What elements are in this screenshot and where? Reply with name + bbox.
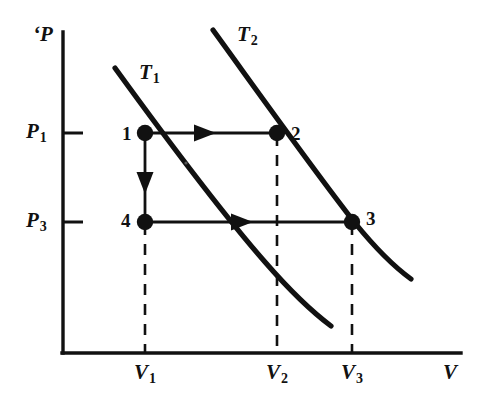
isotherm-label-T1: T1 [139,62,160,86]
y-tick-label-P1-sub: 1 [40,130,47,145]
process-arrowhead-4-to-3 [231,214,253,231]
x-tick-label-V2-base: V [266,360,280,384]
isotherm-curve-T2 [213,30,411,279]
y-tick-label-P1: P1 [26,121,47,145]
process-arrowhead-1-to-4 [137,172,154,194]
x-tick-label-V3-sub: 3 [356,371,363,386]
pv-diagram-canvas [0,0,480,414]
state-point-label-2: 2 [291,124,301,143]
isotherm-label-T2-sub: 2 [251,33,258,48]
isotherm-curve-T1 [115,68,331,326]
process-arrowhead-1-to-2 [194,125,216,142]
x-tick-label-V3-base: V [341,360,355,384]
x-tick-label-V3: V3 [341,362,363,386]
x-tick-label-V1-base: V [134,360,148,384]
isotherm-label-T2: T2 [237,24,258,48]
state-point-marker-4 [137,214,153,230]
pv-diagram-figure: ‘P V P1 P3 V1 V2 V3 T1 T2 1 2 3 4 [0,0,480,414]
x-tick-label-V1-sub: 1 [149,371,156,386]
y-tick-label-P3-sub: 3 [40,219,47,234]
x-tick-label-V2: V2 [266,362,288,386]
state-point-marker-2 [269,125,285,141]
y-tick-label-P1-base: P [26,119,39,143]
y-axis-label-prefix: ‘ [33,22,40,46]
pressure-tick-marks [63,133,83,222]
isotherm-label-T1-base: T [139,60,152,84]
state-point-marker-3 [344,214,360,230]
scan-speck [184,161,187,164]
state-point-label-3: 3 [366,209,376,228]
isotherm-label-T2-base: T [237,22,250,46]
y-axis-label-text: P [40,22,53,46]
isotherm-label-T1-sub: 1 [153,71,160,86]
state-point-label-1: 1 [122,124,132,143]
y-tick-label-P3-base: P [26,208,39,232]
x-tick-label-V1: V1 [134,362,156,386]
state-point-marker-1 [137,125,153,141]
x-axis-label: V [443,362,457,383]
y-tick-label-P3: P3 [26,210,47,234]
y-axis-label: ‘P [33,24,53,45]
x-tick-label-V2-sub: 2 [281,371,288,386]
state-point-label-4: 4 [121,211,131,230]
